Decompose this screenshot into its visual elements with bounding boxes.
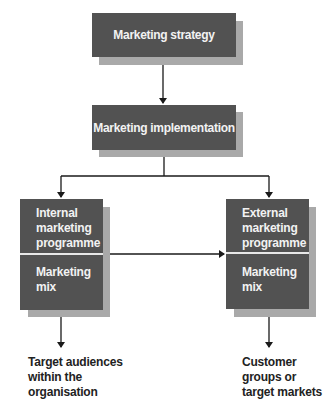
internal-programme-line-1: Internal	[36, 206, 103, 221]
internal-programme-line-3: programme	[36, 236, 103, 251]
internal-mix-line-1: Marketing	[36, 265, 103, 280]
marketing-strategy-label: Marketing strategy	[113, 28, 214, 42]
external-programme-line-2: marketing	[242, 221, 309, 236]
internal-output-line-2: within the	[28, 370, 123, 385]
internal-programme-line-2: marketing	[36, 221, 103, 236]
internal-divider	[20, 253, 103, 255]
external-output-line-2: groups or	[242, 370, 322, 385]
internal-programme-section: Internal marketing programme	[20, 206, 103, 251]
internal-output-label: Target audiences within the organisation	[28, 355, 123, 400]
external-divider	[226, 252, 309, 254]
external-mix-section: Marketing mix	[226, 265, 309, 295]
external-mix-line-1: Marketing	[242, 265, 309, 280]
marketing-implementation-label: Marketing implementation	[93, 121, 235, 135]
internal-mix-section: Marketing mix	[20, 265, 103, 295]
marketing-strategy-box: Marketing strategy	[92, 13, 236, 57]
external-programme-line-1: External	[242, 206, 309, 221]
external-output-line-3: target markets	[242, 385, 322, 400]
marketing-implementation-box: Marketing implementation	[92, 105, 236, 150]
external-programme-section: External marketing programme	[226, 206, 309, 251]
external-mix-line-2: mix	[242, 280, 309, 295]
internal-marketing-box: Internal marketing programme Marketing m…	[20, 199, 103, 310]
internal-output-line-1: Target audiences	[28, 355, 123, 370]
internal-mix-line-2: mix	[36, 280, 103, 295]
external-output-line-1: Customer	[242, 355, 322, 370]
internal-output-line-3: organisation	[28, 385, 123, 400]
external-programme-line-3: programme	[242, 236, 309, 251]
external-marketing-box: External marketing programme Marketing m…	[226, 199, 309, 309]
external-output-label: Customer groups or target markets	[242, 355, 322, 400]
